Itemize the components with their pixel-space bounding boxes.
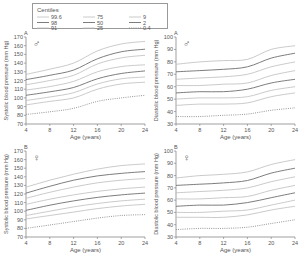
x-tick-label: 24 [142,127,148,133]
x-tick-label: 20 [118,127,124,133]
x-tick-label: 8 [48,127,51,133]
centile-line-25 [176,200,295,212]
y-tick-label: 130 [14,69,23,75]
x-tick-label: 4 [24,127,27,133]
centile-line-0.4 [176,108,295,117]
y-tick-label: 170 [14,34,23,40]
x-tick-label: 24 [292,240,298,246]
x-tick-label: 16 [94,240,100,246]
y-tick-label: 100 [164,34,173,40]
panel-label: A [174,30,178,36]
panel-label: B [174,144,178,150]
y-tick-label: 110 [14,200,23,206]
centile-line-98 [176,168,295,185]
x-axis-label: Age (years) [70,247,101,253]
y-tick-label: 90 [17,104,23,110]
x-tick-label: 16 [94,127,100,133]
y-tick-label: 70 [167,185,173,191]
centile-line-50 [176,79,295,93]
centile-line-9 [176,206,295,217]
centile-line-98 [26,49,145,79]
centile-line-9 [26,82,145,105]
chart-panel-A-male-systolic: 7080901001101201301401501601704812162024… [3,30,148,140]
x-tick-label: 8 [48,240,51,246]
y-tick-label: 80 [167,173,173,179]
y-tick-label: 40 [167,109,173,115]
y-tick-label: 50 [167,96,173,102]
centile-line-9 [176,93,295,106]
male-symbol-icon: ♂ [33,38,41,49]
x-tick-label: 12 [71,240,77,246]
x-axis-label: Age (years) [70,134,101,140]
x-tick-label: 8 [198,127,201,133]
centile-line-75 [26,65,145,90]
y-tick-label: 90 [17,217,23,223]
x-tick-label: 24 [292,127,298,133]
y-tick-label: 100 [14,208,23,214]
x-tick-label: 24 [142,240,148,246]
x-tick-label: 12 [221,127,227,133]
y-axis-label: Diastolic blood pressure (mm Hg) [153,40,159,122]
centile-line-99.6 [176,160,295,178]
y-tick-label: 140 [14,174,23,180]
y-axis-label: Systolic blood pressure (mm Hg) [3,154,9,234]
y-tick-label: 100 [14,95,23,101]
y-tick-label: 160 [14,157,23,163]
x-tick-label: 12 [71,127,77,133]
y-axis-label: Systolic blood pressure (mm Hg) [3,40,9,120]
panel-label: A [24,30,28,36]
centile-charts-figure: Centiles99.69891755025920.4 708090100110… [0,0,305,257]
x-tick-label: 16 [244,127,250,133]
y-tick-label: 130 [14,182,23,188]
y-tick-label: 80 [17,112,23,118]
y-tick-label: 90 [167,46,173,52]
female-symbol-icon: ♀ [183,152,191,163]
centile-line-75 [26,187,145,204]
y-tick-label: 70 [17,121,23,127]
x-tick-label: 8 [198,240,201,246]
y-tick-label: 100 [164,148,173,154]
chart-panel-A-male-diastolic: 304050607080901004812162024Age (years)Di… [153,30,298,140]
chart-panels: 7080901001101201301401501601704812162024… [0,0,305,257]
y-tick-label: 50 [167,209,173,215]
y-tick-label: 80 [17,225,23,231]
y-tick-label: 60 [167,84,173,90]
y-tick-label: 70 [17,234,23,240]
y-tick-label: 90 [167,160,173,166]
chart-panel-B-female-systolic: 7080901001101201301401501601704812162024… [3,144,148,253]
centile-line-25 [26,199,145,215]
y-tick-label: 150 [14,165,23,171]
x-tick-label: 20 [268,127,274,133]
centile-line-50 [176,193,295,207]
y-tick-label: 60 [167,197,173,203]
panel-label: B [24,144,28,150]
centile-line-25 [176,87,295,99]
female-symbol-icon: ♀ [33,152,41,163]
y-tick-label: 30 [167,121,173,127]
y-tick-label: 30 [167,234,173,240]
y-axis-label: Diastolic blood pressure (mm Hg) [153,153,159,235]
x-tick-label: 4 [24,240,27,246]
centile-line-99.6 [176,46,295,65]
x-axis-label: Age (years) [220,247,251,253]
chart-panel-B-female-diastolic: 304050607080901004812162024Age (years)Di… [153,144,298,253]
x-tick-label: 20 [268,240,274,246]
y-tick-label: 80 [167,59,173,65]
x-tick-label: 20 [118,240,124,246]
y-tick-label: 170 [14,148,23,154]
y-tick-label: 140 [14,60,23,66]
y-tick-label: 120 [14,191,23,197]
y-tick-label: 160 [14,43,23,49]
centile-line-25 [26,77,145,101]
centile-line-0.4 [176,220,295,230]
x-axis-label: Age (years) [220,134,251,140]
y-tick-label: 120 [14,78,23,84]
y-tick-label: 70 [167,71,173,77]
centile-line-50 [26,193,145,210]
x-tick-label: 4 [174,127,177,133]
centile-line-91 [26,55,145,85]
y-tick-label: 110 [14,86,23,92]
centile-line-99.6 [26,164,145,187]
centile-line-98 [26,172,145,194]
x-tick-label: 4 [174,240,177,246]
